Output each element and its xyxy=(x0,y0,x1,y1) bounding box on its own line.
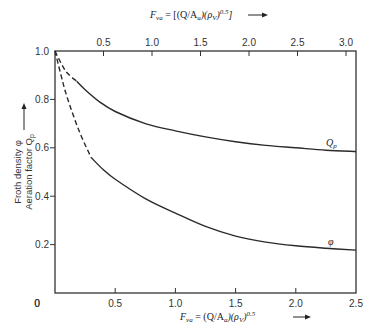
y-tick-label: 0.6 xyxy=(35,142,49,153)
y-tick-label: 0.2 xyxy=(35,239,49,250)
series-phi-line xyxy=(91,157,356,250)
x-tick-label: 2.0 xyxy=(289,298,303,309)
x-top-tick-label: 1.5 xyxy=(194,37,208,48)
bottom-axis-title: Fva = (Q/Aa)(ρV)0.5 xyxy=(179,310,256,324)
x-top-tick-label: 2.5 xyxy=(291,37,305,48)
series xyxy=(55,51,356,250)
x-tick-label: 0.5 xyxy=(108,298,122,309)
y-tick-label: 1.0 xyxy=(35,46,49,57)
plot-frame xyxy=(55,51,356,293)
x-top-tick-label: 2.0 xyxy=(242,37,256,48)
top-axis-arrow-icon xyxy=(248,13,268,18)
y-tick-label: 0.8 xyxy=(35,94,49,105)
series-phi-dashed-line xyxy=(55,51,91,157)
series-qp-line xyxy=(77,81,356,151)
x-tick-label: 1.5 xyxy=(229,298,243,309)
x-top-tick-label: 1.0 xyxy=(145,37,159,48)
x-axis-bottom: 00.51.01.52.02.5 xyxy=(34,288,363,309)
top-axis-title: Fva = [(Q/Aa)(ρV)0.5] xyxy=(149,8,233,22)
y-axis: 00.20.40.60.81.0 xyxy=(34,46,55,310)
y-axis-title: Froth density φ Aeration factor Qp xyxy=(12,134,36,210)
x-tick-label: 0 xyxy=(34,298,40,309)
series-label-qp: Qp xyxy=(326,137,337,150)
x-top-tick-label: 0.5 xyxy=(97,37,111,48)
y-tick-label: 0.4 xyxy=(35,191,49,202)
x-axis-top: 0.51.01.52.02.53.0 xyxy=(97,37,354,56)
chart: 00.20.40.60.81.0 00.51.01.52.02.5 0.51.0… xyxy=(0,0,372,334)
y-axis-title-line1: Froth density φ xyxy=(12,140,23,204)
x-tick-label: 1.0 xyxy=(168,298,182,309)
series-label-phi: φ xyxy=(328,236,334,247)
y-axis-title-line2: Aeration factor Qp xyxy=(23,134,36,210)
bottom-axis-arrow-icon xyxy=(293,315,311,320)
y-axis-arrow-icon xyxy=(22,103,27,130)
x-tick-label: 2.5 xyxy=(349,298,363,309)
x-top-tick-label: 3.0 xyxy=(339,37,353,48)
series-qp-dashed-line xyxy=(55,51,77,81)
